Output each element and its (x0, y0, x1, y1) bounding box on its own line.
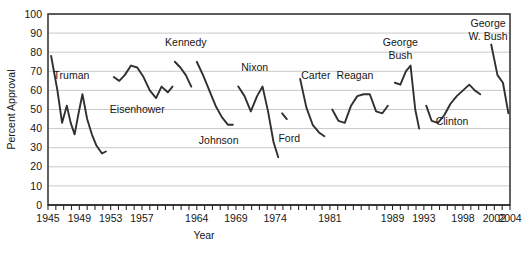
x-tick-label-1981: 1981 (318, 212, 342, 224)
series-label-george-w-bush: George (471, 17, 506, 29)
series-label-johnson: Johnson (199, 134, 239, 146)
y-tick-label-60: 60 (30, 84, 42, 96)
series-label-ford: Ford (278, 132, 300, 144)
series-label-george-bush-line2: Bush (388, 49, 412, 61)
series-label-reagan: Reagan (337, 69, 374, 81)
y-tick-label-20: 20 (30, 160, 42, 172)
y-tick-label-80: 80 (30, 46, 42, 58)
series-label-kennedy: Kennedy (165, 36, 207, 48)
y-tick-label-70: 70 (30, 65, 42, 77)
x-tick-label-1989: 1989 (381, 212, 405, 224)
series-label-truman: Truman (54, 69, 90, 81)
x-tick-label-1949: 1949 (68, 212, 92, 224)
series-label-george-w-bush-line2: W. Bush (469, 30, 508, 42)
x-tick-label-1993: 1993 (412, 212, 436, 224)
x-tick-label-1964: 1964 (185, 212, 209, 224)
y-tick-label-10: 10 (30, 180, 42, 192)
y-axis-title: Percent Approval (5, 70, 17, 150)
x-tick-label-1953: 1953 (99, 212, 123, 224)
y-tick-label-40: 40 (30, 122, 42, 134)
y-tick-label-30: 30 (30, 141, 42, 153)
y-tick-label-90: 90 (30, 27, 42, 39)
y-tick-label-100: 100 (24, 8, 42, 20)
x-tick-label-1998: 1998 (451, 212, 475, 224)
y-tick-label-50: 50 (30, 103, 42, 115)
x-tick-label-1974: 1974 (263, 212, 287, 224)
x-tick-label-2004: 2004 (498, 212, 522, 224)
series-label-carter: Carter (301, 69, 331, 81)
series-label-eisenhower: Eisenhower (110, 103, 165, 115)
x-tick-label-1945: 1945 (36, 212, 60, 224)
x-axis-title: Year (193, 229, 215, 241)
x-tick-label-1969: 1969 (224, 212, 248, 224)
series-label-george-bush: George (383, 36, 418, 48)
series-label-nixon: Nixon (241, 61, 268, 73)
series-label-clinton: Clinton (436, 115, 469, 127)
approval-rating-chart: 0102030405060708090100Percent Approval19… (0, 0, 529, 257)
chart-canvas: 0102030405060708090100Percent Approval19… (0, 0, 529, 257)
x-tick-label-1957: 1957 (130, 212, 154, 224)
y-tick-label-0: 0 (36, 199, 42, 211)
